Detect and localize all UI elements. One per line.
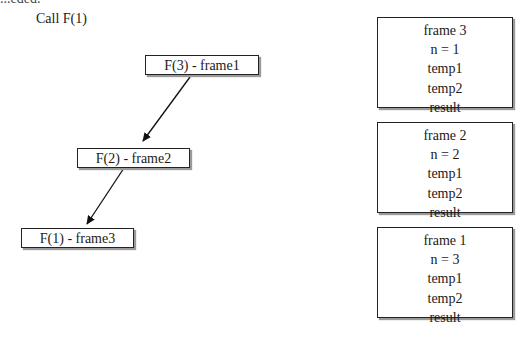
frame-line: temp1 [378,164,512,183]
edge-f3-to-f2 [143,77,190,141]
edge-f2-to-f1 [87,168,124,224]
frame-title: frame 1 [378,231,512,250]
frame-line: n = 1 [378,40,512,59]
frame-line: result [378,308,512,327]
frame-line: temp2 [378,184,512,203]
call-node-label: F(3) - frame1 [164,58,239,73]
frame-line: temp2 [378,79,512,98]
frame-line: temp1 [378,269,512,288]
call-node-f1: F(1) - frame3 [21,228,134,248]
call-node-label: F(1) - frame3 [40,231,115,246]
call-node-label: F(2) - frame2 [96,151,171,166]
stack-frame-3: frame 3 n = 1 temp1 temp2 result [377,17,513,108]
frame-line: n = 2 [378,145,512,164]
frame-line: temp1 [378,59,512,78]
frame-line: temp2 [378,289,512,308]
stack-frame-2: frame 2 n = 2 temp1 temp2 result [377,122,513,213]
frame-line: result [378,98,512,117]
stack-frame-1: frame 1 n = 3 temp1 temp2 result [377,227,513,318]
frame-title: frame 2 [378,126,512,145]
call-node-f3: F(3) - frame1 [145,55,259,75]
frame-title: frame 3 [378,21,512,40]
call-node-f2: F(2) - frame2 [77,148,190,168]
frame-line: n = 3 [378,250,512,269]
frame-line: result [378,203,512,222]
